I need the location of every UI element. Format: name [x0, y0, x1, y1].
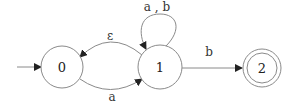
state-1: 1: [138, 45, 182, 89]
edge-1-self-loop: [141, 14, 176, 49]
state-1-label: 1: [156, 60, 164, 75]
edge-label-a-b: a , b: [144, 0, 171, 14]
state-0: 0: [41, 46, 83, 88]
edge-label-epsilon: ε: [107, 29, 113, 43]
state-2-label: 2: [258, 61, 266, 76]
edge-1-to-0: [80, 42, 142, 57]
automaton-diagram: ε a a , b b 0 1 2: [0, 0, 300, 103]
state-2-accepting: 2: [243, 49, 281, 87]
edge-label-b: b: [205, 45, 213, 59]
edge-0-to-1: [80, 79, 142, 90]
edge-label-a: a: [108, 90, 115, 103]
state-0-label: 0: [58, 60, 66, 75]
